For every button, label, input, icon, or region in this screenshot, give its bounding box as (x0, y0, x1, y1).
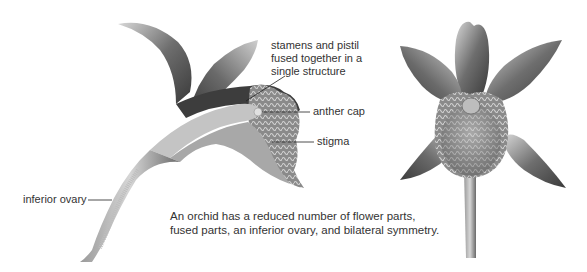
dorsal-sepal (118, 23, 192, 104)
front-upper-right-petal (484, 40, 562, 104)
caption-line1: An orchid has a reduced number of flower… (170, 209, 439, 223)
label-inferior-ovary: inferior ovary (23, 193, 87, 206)
front-top-sepal (455, 22, 489, 96)
label-stamens-pistil: stamens and pistil fused together in a s… (271, 39, 362, 78)
caption: An orchid has a reduced number of flower… (170, 209, 439, 237)
front-lip-shade (441, 104, 501, 176)
label-anther-cap: anther cap (313, 105, 365, 118)
front-stem (464, 170, 476, 258)
label-stamens-pistil-line2: fused together in a (271, 52, 362, 65)
caption-line2: fused parts, an inferior ovary, and bila… (170, 223, 439, 237)
label-stamens-pistil-line3: single structure (271, 65, 362, 78)
front-lower-right-sepal (502, 134, 566, 188)
label-stamens-pistil-line1: stamens and pistil (271, 39, 362, 52)
label-stigma: stigma (317, 135, 349, 148)
stem-ovary (80, 150, 180, 262)
anther-cap-shape (254, 108, 262, 116)
front-column (462, 98, 480, 114)
